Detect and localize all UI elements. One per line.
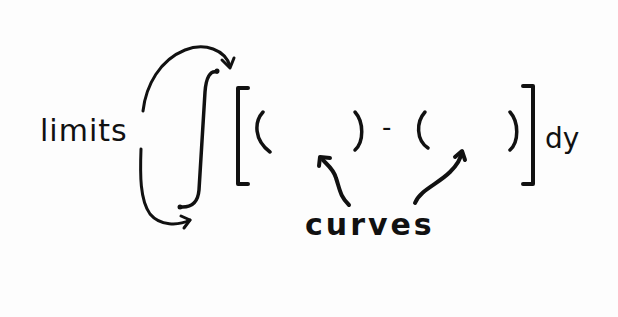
integral-sign-icon [178,69,220,210]
integral-setup-diagram: limits - dy curves [0,0,618,317]
right-curve-arrow-icon [415,151,465,203]
right-bracket-icon [523,86,533,184]
left-curve-arrow-icon [319,157,349,205]
minus-sign: - [382,112,391,142]
differential-label: dy [545,122,579,155]
left-bracket-icon [238,88,248,184]
close-paren-1 [355,112,362,150]
limits-label: limits [40,113,128,148]
close-paren-2 [510,112,517,150]
upper-limit-arrow-icon [143,47,234,111]
open-paren-1 [257,112,270,152]
curves-label: curves [305,207,435,242]
open-paren-2 [419,112,428,148]
lower-limit-arrow-icon [141,149,190,228]
